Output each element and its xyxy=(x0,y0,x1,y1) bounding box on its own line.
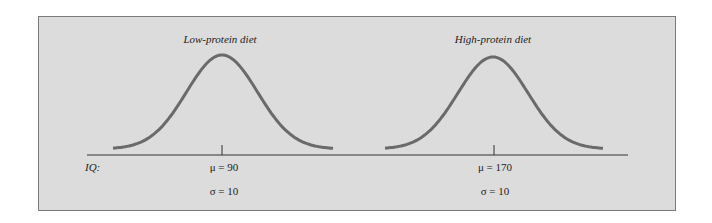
low-protein-curve xyxy=(113,55,333,148)
high-protein-curve xyxy=(385,57,603,148)
high-protein-mean: μ = 170 xyxy=(478,161,512,173)
iq-axis-label: IQ: xyxy=(85,161,100,173)
low-protein-title: Low-protein diet xyxy=(183,33,256,45)
low-protein-mean: μ = 90 xyxy=(210,161,239,173)
high-protein-sd: σ = 10 xyxy=(481,185,510,197)
high-protein-title: High-protein diet xyxy=(455,33,531,45)
low-protein-sd: σ = 10 xyxy=(210,185,239,197)
distribution-plot xyxy=(0,0,712,223)
